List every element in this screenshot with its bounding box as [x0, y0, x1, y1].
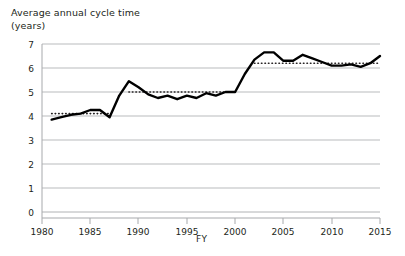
- y-tick-labels: 7 6 5 4 3 2 1 0: [28, 40, 34, 218]
- x-tick-labels: 1980 1985 1990 1995 2000 2005 2010 2015: [31, 227, 392, 237]
- x-tick-label-2010: 2010: [321, 227, 344, 237]
- x-tick-label-2015: 2015: [369, 227, 392, 237]
- data-series-group: [52, 52, 380, 119]
- reference-lines-group: [52, 63, 380, 113]
- data-line-series-0: [52, 52, 380, 119]
- y-tick-label-0: 0: [28, 208, 34, 218]
- y-gridlines: [42, 44, 380, 212]
- x-tick-label-2005: 2005: [272, 227, 295, 237]
- x-tick-label-1985: 1985: [79, 227, 102, 237]
- chart-plot-svg: 7 6 5 4 3 2 1 0 1980 1985 1990 1995 2000…: [0, 0, 405, 256]
- y-tick-label-5: 5: [28, 88, 34, 98]
- y-tick-label-6: 6: [28, 64, 34, 74]
- x-tick-label-1980: 1980: [31, 227, 54, 237]
- x-axis-title: FY: [196, 234, 207, 244]
- y-tick-label-4: 4: [28, 112, 34, 122]
- y-tick-label-2: 2: [28, 160, 34, 170]
- y-tick-label-1: 1: [28, 184, 34, 194]
- y-tick-label-3: 3: [28, 136, 34, 146]
- x-axis: [42, 212, 380, 224]
- x-tick-label-2000: 2000: [224, 227, 247, 237]
- y-tick-label-7: 7: [28, 40, 34, 50]
- x-tick-label-1990: 1990: [127, 227, 150, 237]
- chart-container: Average annual cycle time(years): [0, 0, 405, 256]
